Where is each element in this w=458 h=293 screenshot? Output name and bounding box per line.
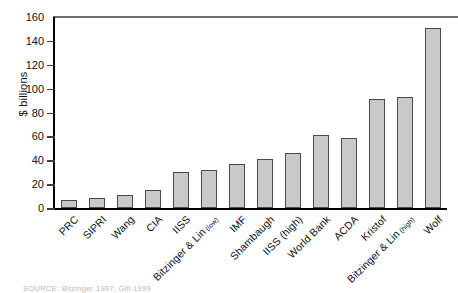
bar bbox=[369, 99, 386, 208]
plot-area: 020406080100120140160 bbox=[53, 17, 447, 210]
y-tick-mark bbox=[47, 65, 55, 67]
chart-figure: $ billions 020406080100120140160 PRCSIPR… bbox=[0, 0, 458, 293]
y-tick-label: 140 bbox=[26, 35, 44, 47]
y-tick-label: 100 bbox=[26, 83, 44, 95]
bar bbox=[257, 159, 274, 208]
y-tick-mark bbox=[47, 184, 55, 186]
y-tick-mark bbox=[47, 160, 55, 162]
y-tick-label: 80 bbox=[32, 107, 44, 119]
y-tick-label: 160 bbox=[26, 11, 44, 23]
bar bbox=[173, 172, 190, 208]
x-tick-label: IISS bbox=[170, 213, 193, 236]
x-tick-label: ACDA bbox=[331, 213, 360, 242]
x-tick-label: IMF bbox=[227, 213, 248, 234]
y-tick-label: 20 bbox=[32, 178, 44, 190]
x-tick-label: Wang bbox=[109, 213, 137, 241]
y-tick-mark bbox=[47, 136, 55, 138]
x-tick-label: Wolf bbox=[421, 213, 444, 236]
y-tick-label: 60 bbox=[32, 130, 44, 142]
bar bbox=[397, 97, 414, 208]
y-tick-mark bbox=[47, 41, 55, 43]
bar bbox=[201, 170, 218, 208]
x-tick-label: SIPRI bbox=[80, 213, 108, 241]
bar bbox=[145, 190, 162, 208]
bar bbox=[313, 135, 330, 208]
source-note: SOURCE: Bitzinger 1997; Gill 1999 bbox=[23, 284, 151, 293]
bar bbox=[117, 195, 134, 208]
bar bbox=[229, 164, 246, 208]
x-tick-label: CIA bbox=[143, 213, 164, 234]
x-tick-label: PRC bbox=[56, 213, 80, 237]
y-tick-mark bbox=[47, 89, 55, 91]
y-tick-label: 120 bbox=[26, 59, 44, 71]
y-tick-mark bbox=[47, 113, 55, 115]
bar bbox=[285, 153, 302, 208]
y-tick-label: 40 bbox=[32, 154, 44, 166]
bar bbox=[425, 28, 442, 208]
bar bbox=[61, 200, 78, 208]
bar bbox=[341, 138, 358, 208]
bar bbox=[89, 198, 106, 208]
y-tick-mark bbox=[47, 208, 55, 210]
y-tick-label: 0 bbox=[38, 202, 44, 214]
